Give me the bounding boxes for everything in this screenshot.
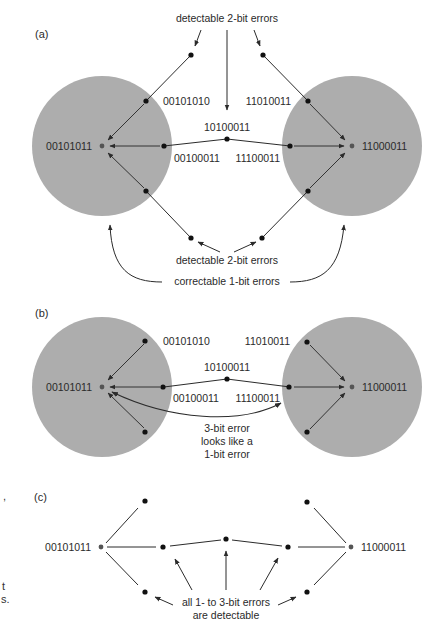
middle-word-label-b: 10100011 (204, 361, 250, 373)
neighbor-right-top-label-b: 11010011 (245, 335, 290, 347)
hamming-distance-diagram: (a) detectable 2-bit errors (0, 0, 436, 624)
panel-a: (a) detectable 2-bit errors (32, 12, 422, 287)
codeword-right-label-b: 11000011 (362, 381, 407, 393)
arrow-top-right (254, 30, 260, 46)
neighbor-right-top-label: 11010011 (246, 95, 291, 107)
annotation-correctable: correctable 1-bit errors (174, 275, 280, 287)
panel-a-label: (a) (35, 28, 48, 40)
panel-c-label: (c) (34, 491, 47, 503)
codeword-left-label: 00101011 (46, 140, 92, 152)
neighbor-left-top-label-b: 00101010 (163, 335, 210, 347)
neighbor-left-top-label: 00101010 (163, 95, 210, 107)
annotation-detectable-line2: are detectable (193, 609, 260, 621)
arrow-top-left (195, 30, 201, 46)
codeword-left-label-b: 00101011 (46, 381, 92, 393)
annotation-bottom-detectable: detectable 2-bit errors (176, 254, 278, 266)
annotation-top-detectable: detectable 2-bit errors (176, 12, 278, 24)
margin-fragment: t (2, 580, 5, 592)
panel-b: (b) 00101011 11000011 00101010 00100011 … (32, 307, 422, 460)
arrow-correctable-left (110, 225, 162, 282)
codeword-right-label: 11000011 (362, 140, 407, 152)
neighbor-left-mid-label-b: 00100011 (173, 392, 219, 404)
panel-b-label: (b) (35, 307, 48, 319)
neighbor-right-mid-label-b: 11100011 (236, 392, 281, 404)
codeword-right-dot (350, 144, 355, 149)
annotation-3bit-line2: looks like a (201, 435, 253, 447)
annotation-detectable-line1: all 1- to 3-bit errors (182, 596, 270, 608)
codeword-left-dot (100, 144, 105, 149)
annotation-3bit-line3: 1-bit error (204, 448, 250, 460)
margin-fragment: s. (1, 593, 10, 605)
middle-word-label: 10100011 (204, 121, 250, 133)
codeword-right-label-c: 11000011 (361, 541, 406, 553)
codeword-left-label-c: 00101011 (45, 541, 91, 553)
margin-fragment: , (3, 490, 6, 502)
panel-c: (c) 00101011 11000011 all 1- to 3-bit er… (34, 491, 406, 621)
annotation-3bit-line1: 3-bit error (204, 422, 250, 434)
neighbor-left-mid-label: 00100011 (174, 152, 220, 164)
arrow-correctable-right (290, 225, 344, 282)
neighbor-right-mid-label: 11100011 (236, 152, 281, 164)
